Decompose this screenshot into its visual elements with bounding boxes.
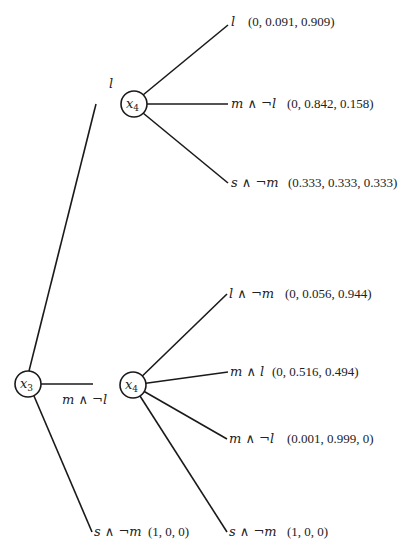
bottom-x4-branch-label-0: l ∧ ¬m xyxy=(229,286,274,301)
decision-tree-diagram: lm ∧ ¬ls ∧ ¬m(1, 0, 0)l(0, 0.091, 0.909)… xyxy=(0,0,413,555)
bottom-x4-branch-2 xyxy=(144,391,227,439)
bottom-x4-leaf-probabilities-3: (1, 0, 0) xyxy=(287,524,328,539)
edge-labels: lm ∧ ¬ls ∧ ¬m(1, 0, 0)l(0, 0.091, 0.909)… xyxy=(62,14,397,539)
root-edge-0 xyxy=(29,104,96,371)
root-edge-label-2: s ∧ ¬m xyxy=(94,524,142,539)
node-x4-top: x4 xyxy=(121,91,147,117)
top-x4-branch-2 xyxy=(143,113,228,183)
top-x4-leaf-probabilities-0: (0, 0.091, 0.909) xyxy=(248,14,335,29)
bottom-x4-leaf-probabilities-1: (0, 0.516, 0.494) xyxy=(272,364,359,379)
root-edge-2 xyxy=(34,396,92,532)
top-x4-branch-0 xyxy=(143,25,228,95)
node-x4-bottom: x4 xyxy=(120,372,146,398)
top-x4-branch-label-0: l xyxy=(231,14,235,29)
top-x4-leaf-probabilities-2: (0.333, 0.333, 0.333) xyxy=(288,175,397,190)
root-leaf-probabilities-2: (1, 0, 0) xyxy=(148,524,189,539)
top-x4-branch-label-1: m ∧ ¬l xyxy=(231,96,276,111)
root-edge-label-0: l xyxy=(109,76,113,91)
node-x3: x3 xyxy=(15,371,41,397)
top-x4-branch-label-2: s ∧ ¬m xyxy=(231,175,279,190)
bottom-x4-leaf-probabilities-0: (0, 0.056, 0.944) xyxy=(285,286,372,301)
bottom-x4-branch-1 xyxy=(146,372,228,383)
bottom-x4-leaf-probabilities-2: (0.001, 0.999, 0) xyxy=(287,431,374,446)
bottom-x4-branch-0 xyxy=(142,294,227,376)
nodes: x3x4x4 xyxy=(15,91,147,398)
top-x4-leaf-probabilities-1: (0, 0.842, 0.158) xyxy=(287,96,374,111)
bottom-x4-branch-label-3: s ∧ ¬m xyxy=(229,524,277,539)
bottom-x4-branch-label-1: m ∧ l xyxy=(230,364,264,379)
bottom-x4-branch-3 xyxy=(140,396,227,532)
bottom-x4-branch-label-2: m ∧ ¬l xyxy=(229,431,274,446)
root-edge-label-1: m ∧ ¬l xyxy=(62,392,107,407)
